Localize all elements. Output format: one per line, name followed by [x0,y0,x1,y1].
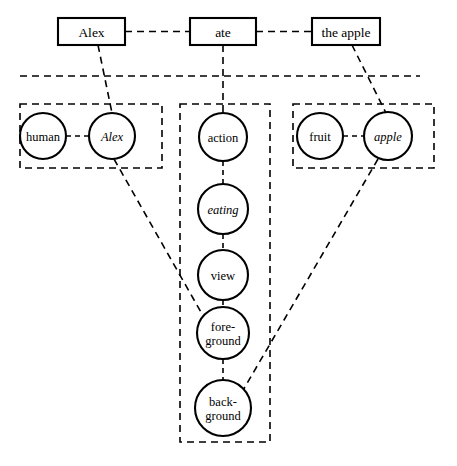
concept-node-background[interactable]: back- ground [195,380,251,436]
link-box-apple-to-node-apple [352,45,386,113]
circle-label-view: view [211,269,235,283]
concept-node-eating[interactable]: eating [198,184,248,234]
cross-layer-links [98,45,386,113]
circle-label-human: human [26,130,61,144]
box-label-the-apple: the apple [321,25,370,40]
concept-node-action[interactable]: action [199,113,247,161]
diagram-canvas: Alex ate the apple [0,0,457,466]
circle-label-foreground-line1: fore- [211,320,235,334]
sentence-box-alex[interactable]: Alex [58,18,125,45]
link-node-apple-to-node-background [242,159,378,392]
sentence-box-ate[interactable]: ate [190,18,256,45]
box-label-ate: ate [215,25,231,40]
left-concept-group: human Alex [20,113,135,159]
concept-node-human[interactable]: human [20,113,66,159]
circle-label-action: action [208,131,239,145]
circle-label-apple: apple [374,130,402,144]
concept-node-view[interactable]: view [198,250,248,300]
concept-node-apple[interactable]: apple [364,112,412,160]
box-label-alex: Alex [78,25,104,40]
circle-label-background-line1: back- [209,395,237,409]
middle-concept-group: action eating view fore- ground back- gr… [195,113,251,436]
circle-label-fruit: fruit [309,130,331,144]
concept-node-alex[interactable]: Alex [89,113,135,159]
circle-label-alex: Alex [100,130,124,144]
link-node-alex-to-node-foreground [114,159,206,321]
circle-label-eating: eating [207,203,238,217]
sentence-box-the-apple[interactable]: the apple [312,18,380,45]
concept-node-foreground[interactable]: fore- ground [197,307,249,359]
link-box-alex-to-node-alex [98,45,112,113]
sentence-layer: Alex ate the apple [58,18,380,45]
concept-node-fruit[interactable]: fruit [297,113,343,159]
right-concept-group: fruit apple [297,112,412,160]
semantic-network-diagram: Alex ate the apple [0,0,457,466]
circle-label-foreground-line2: ground [205,334,241,348]
circle-label-background-line2: ground [205,409,241,423]
